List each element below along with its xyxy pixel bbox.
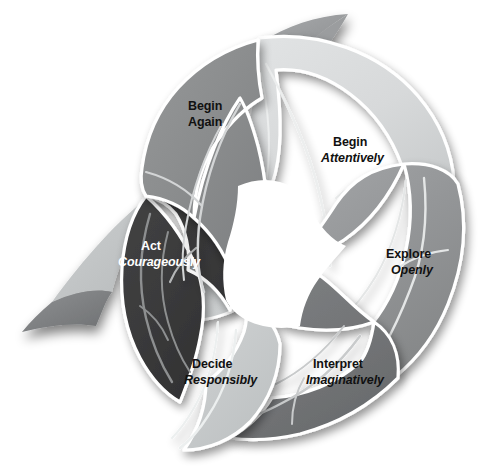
label-begin-attentively: Begin Attentively <box>320 135 385 165</box>
diagram-canvas: Begin Again Begin Attentively Explore Op… <box>0 0 494 471</box>
label-begin-attentively-line1: Begin <box>333 135 367 149</box>
tail-dark-underside <box>22 290 112 332</box>
label-begin-attentively-line2: Attentively <box>320 151 385 165</box>
cycle-diagram: Begin Again Begin Attentively Explore Op… <box>0 0 494 471</box>
petal-group: Begin Again Begin Attentively Explore Op… <box>22 14 463 450</box>
